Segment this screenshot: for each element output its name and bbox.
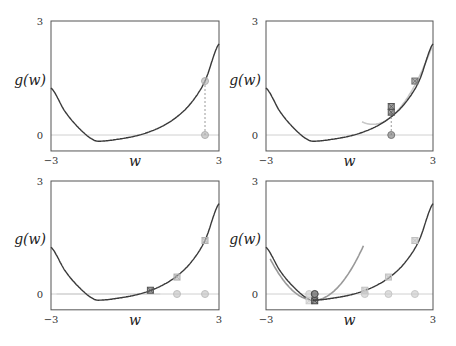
y-tick-label: 3 (37, 176, 43, 187)
point-marker-x-square (174, 274, 180, 280)
point-marker-x-square (412, 238, 418, 244)
point-marker-x-square (388, 104, 394, 110)
point-marker-circle (202, 291, 209, 298)
x-tick-label: 3 (430, 155, 436, 166)
point-marker-circle (388, 132, 395, 139)
x-axis-label: w (344, 312, 356, 328)
panel-bottom-right: 03−33wg(w) (229, 176, 436, 328)
y-axis-label: g(w) (14, 72, 46, 88)
x-tick-label: 3 (216, 155, 222, 166)
point-marker-x-square (412, 78, 418, 84)
y-axis-label: g(w) (229, 72, 261, 88)
axes-frame (266, 21, 433, 151)
x-tick-label: −3 (44, 155, 59, 166)
y-tick-label: 0 (37, 289, 43, 300)
y-tick-label: 3 (37, 16, 43, 27)
function-curve (51, 44, 219, 141)
y-tick-label: 0 (252, 130, 258, 141)
panel-top-right: 03−33wg(w) (229, 16, 436, 169)
point-marker-circle (385, 291, 392, 298)
point-marker-circle (202, 78, 209, 85)
x-axis-label: w (129, 312, 141, 328)
axes-frame (266, 181, 433, 310)
axes-frame (51, 21, 219, 151)
y-tick-label: 3 (252, 16, 258, 27)
x-axis-label: w (129, 153, 141, 169)
point-marker-x-square (385, 274, 391, 280)
axes-frame (51, 181, 219, 310)
point-marker-circle (361, 291, 368, 298)
point-marker-x-square (312, 298, 318, 304)
x-tick-label: 3 (216, 314, 222, 325)
point-marker-circle (174, 291, 181, 298)
y-tick-label: 0 (37, 130, 43, 141)
panel-bottom-left: 03−33wg(w) (14, 176, 222, 328)
point-marker-x-square (202, 238, 208, 244)
function-curve (266, 204, 433, 301)
point-marker-x-square (388, 109, 394, 115)
point-marker-circle (311, 291, 318, 298)
x-tick-label: 3 (430, 314, 436, 325)
function-curve (51, 204, 219, 301)
x-tick-label: −3 (44, 314, 59, 325)
y-tick-label: 0 (252, 289, 258, 300)
y-axis-label: g(w) (229, 231, 261, 247)
x-tick-label: −3 (259, 155, 274, 166)
y-tick-label: 3 (252, 176, 258, 187)
y-axis-label: g(w) (14, 231, 46, 247)
function-curve (266, 44, 433, 141)
point-marker-circle (411, 291, 418, 298)
x-tick-label: −3 (259, 314, 274, 325)
x-axis-label: w (344, 153, 356, 169)
figure: 03−33wg(w)03−33wg(w)03−33wg(w)03−33wg(w) (0, 0, 456, 346)
point-marker-x-square (147, 287, 153, 293)
panel-top-left: 03−33wg(w) (14, 16, 222, 169)
point-marker-circle (202, 132, 209, 139)
